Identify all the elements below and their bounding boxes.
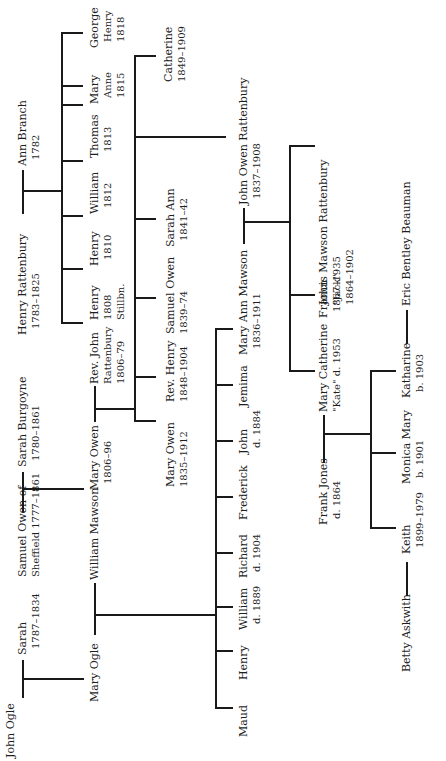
person-william-mawson-child: William d. 1889 <box>237 586 263 630</box>
child-tick <box>215 384 233 386</box>
name: Sarah Ann <box>164 188 177 247</box>
marriage-line <box>22 472 24 512</box>
name-line2: Henry <box>101 7 114 48</box>
name: Henry <box>237 645 250 680</box>
child-tick <box>215 707 233 709</box>
child-tick <box>61 85 83 87</box>
marriage-line <box>94 386 96 422</box>
name: Betty Askwith <box>400 594 413 672</box>
dates: 1812 <box>101 172 114 214</box>
dates: 1836–1911 <box>250 250 263 355</box>
dates: 1835–1912 <box>177 422 190 487</box>
person-henry-rattenbury: Henry Rattenbury 1783–1825 <box>16 234 42 335</box>
name: Ann Branch <box>16 100 29 166</box>
name: Keith <box>400 492 413 554</box>
dates: 1864–1902 <box>343 249 356 305</box>
person-katharine: Katharine b. 1903 <box>400 343 426 398</box>
person-mary-owen-1806: Mary Owen 1806–96 <box>88 425 114 490</box>
name-line2: Rattenbury <box>101 327 114 384</box>
marriage-line <box>406 310 408 344</box>
descent-line <box>243 221 290 223</box>
dates: d. 1884 <box>250 410 263 454</box>
child-tick <box>61 32 83 34</box>
child-tick <box>134 297 156 299</box>
name: John Ogle <box>4 703 17 758</box>
person-mary-anne-1815: Mary Anne 1815 <box>88 72 127 104</box>
name: Samuel Owen <box>164 257 177 334</box>
name: Catherine <box>162 26 175 82</box>
family-tree-diagram: John Ogle Sarah 1787–1834 Samuel Owen of… <box>0 0 446 761</box>
person-sarah-ann: Sarah Ann 1841–42 <box>164 188 190 247</box>
person-mary-ann-mawson: Mary Ann Mawson 1836–1911 <box>237 250 263 355</box>
name: Sarah <box>16 593 29 655</box>
name: Thomas <box>88 114 101 158</box>
dates: b. 1901 <box>413 410 426 484</box>
name: Katharine <box>400 343 413 398</box>
descent-line <box>22 190 62 192</box>
name: John <box>237 410 250 454</box>
dates: 1849–1909 <box>175 26 188 82</box>
person-henry-1810: Henry 1810 <box>88 231 114 266</box>
child-tick <box>289 145 315 147</box>
name: Mary Owen <box>88 425 101 490</box>
person-rev-john-rattenbury: Rev. John Rattenbury 1806–79 <box>88 327 127 384</box>
marriage-line <box>243 208 245 244</box>
dates: 1899–1979 <box>413 492 426 554</box>
name: Rev. Henry <box>164 341 177 402</box>
descent-line <box>22 488 84 490</box>
person-richard: Richard d. 1904 <box>237 534 263 578</box>
sibling-bar <box>61 32 63 324</box>
person-george-henry-1818: George Henry 1818 <box>88 7 127 48</box>
name: Henry <box>88 231 101 266</box>
dates: d. 1904 <box>250 534 263 578</box>
dates: 1848–1904 <box>177 341 190 402</box>
dates: 1839–74 <box>177 257 190 334</box>
dates: 1837–1908 <box>250 78 263 205</box>
name: Sarah Burgoyne <box>16 377 29 467</box>
name: Mary Catherine <box>317 324 330 412</box>
child-tick <box>215 650 233 652</box>
child-tick <box>215 440 233 442</box>
marriage-line <box>406 562 408 596</box>
sibling-bar <box>134 55 136 421</box>
name: Monica Mary <box>400 410 413 484</box>
child-tick <box>134 55 156 57</box>
person-thomas-1813: Thomas 1813 <box>88 114 114 158</box>
dates: 1783–1825 <box>29 234 42 335</box>
dates: 1813 <box>101 114 114 158</box>
name: Frederick <box>237 465 250 520</box>
name: John Owen Rattenbury <box>237 78 250 205</box>
marriage-line <box>22 170 24 214</box>
child-tick <box>215 552 233 554</box>
name: William Mawson <box>88 488 101 580</box>
child-tick <box>370 527 396 529</box>
dates: 1806–79 <box>114 327 127 384</box>
dates: "Kate" d. 1953 <box>330 324 343 412</box>
person-frank-jones: Frank Jones d. 1864 <box>317 458 343 525</box>
sibling-bar <box>370 370 372 528</box>
child-tick <box>134 376 156 378</box>
descent-line <box>94 408 136 410</box>
person-mary-owen-1835: Mary Owen 1835–1912 <box>164 422 190 487</box>
child-tick <box>61 322 83 324</box>
person-samuel-owen-1839: Samuel Owen 1839–74 <box>164 257 190 334</box>
dates: 1818 <box>114 7 127 48</box>
dates: b. 1903 <box>413 343 426 398</box>
person-francis-mawson-rattenbury: Francis Mawson Rattenbury 1867–1935 <box>317 159 343 318</box>
name: Frank Jones <box>317 458 330 525</box>
person-betty-askwith: Betty Askwith <box>400 594 413 672</box>
person-jemima: Jemima <box>237 365 250 407</box>
person-frederick: Frederick <box>237 465 250 520</box>
name: Francis Mawson Rattenbury <box>317 159 330 318</box>
name: Rev. John <box>88 327 101 384</box>
name: Maud <box>237 705 250 737</box>
sibling-bar <box>289 145 291 371</box>
person-catherine: Catherine 1849–1909 <box>162 26 188 82</box>
name: William <box>88 172 101 214</box>
person-eric-bentley-beauman: Eric Bentley Beauman <box>400 181 413 306</box>
dates: 1867–1935 <box>330 159 343 318</box>
person-william-1812: William 1812 <box>88 172 114 214</box>
person-keith: Keith 1899–1979 <box>400 492 426 554</box>
descent-line <box>94 614 216 616</box>
person-john-mawson: John d. 1884 <box>237 410 263 454</box>
